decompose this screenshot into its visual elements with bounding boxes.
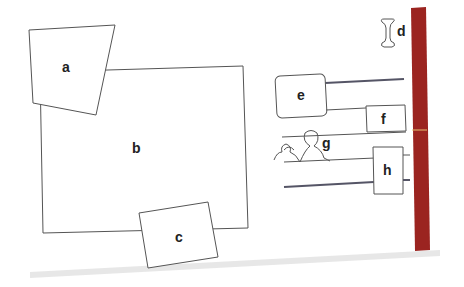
label-d: d <box>397 23 406 39</box>
label-e: e <box>297 87 305 103</box>
label-g: g <box>322 135 331 151</box>
g-top-line <box>282 132 406 137</box>
h-bar <box>284 182 374 187</box>
red-spine <box>411 7 430 251</box>
label-a: a <box>62 59 70 75</box>
box-f <box>366 105 406 132</box>
label-c: c <box>175 229 183 245</box>
label-b: b <box>132 140 141 156</box>
label-f: f <box>381 111 386 127</box>
i-beam-icon <box>381 19 394 47</box>
label-h: h <box>383 162 392 178</box>
diagram-canvas: b a c d e f g h <box>0 0 464 287</box>
e-bar <box>325 79 404 83</box>
diagram-page: b a c d e f g h <box>0 0 464 287</box>
page-shadow <box>30 250 440 278</box>
